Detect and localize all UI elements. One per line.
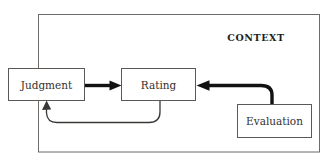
edge-rating-to-judgment-arrowhead [42, 101, 51, 111]
context-label: CONTEXT [227, 32, 284, 43]
node-judgment-label: Judgment [20, 79, 73, 91]
diagram-canvas: CONTEXT Judgment Rating Evaluation [0, 0, 332, 168]
edge-judgment-to-rating-arrowhead [110, 81, 122, 91]
edge-evaluation-to-rating-path [208, 86, 272, 105]
node-rating[interactable]: Rating [122, 69, 196, 101]
node-judgment[interactable]: Judgment [9, 69, 85, 101]
edge-evaluation-to-rating-arrowhead [197, 80, 210, 90]
node-evaluation-label: Evaluation [246, 115, 303, 127]
diagram-svg: CONTEXT Judgment Rating Evaluation [0, 0, 332, 168]
node-evaluation[interactable]: Evaluation [238, 105, 312, 138]
node-rating-label: Rating [141, 79, 177, 91]
edge-rating-to-judgment-path [47, 101, 161, 123]
